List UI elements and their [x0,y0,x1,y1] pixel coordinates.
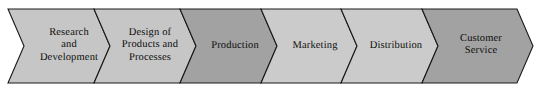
arrow-segment-customer-service[interactable] [422,9,533,83]
value-chain-diagram: Research and Development Design of Produ… [0,0,541,90]
arrow-segment-research-and-development[interactable] [8,9,110,83]
value-chain-arrow-shapes [0,0,541,90]
